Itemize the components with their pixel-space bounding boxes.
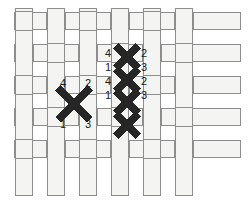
- warp-over-crossing: [16, 12, 33, 31]
- single-stitch-label-bottom-right: 3: [85, 119, 91, 130]
- woven-fabric-illustration: [0, 0, 252, 207]
- column-left-label-2: 1: [105, 62, 111, 73]
- column-left-label-1: 4: [105, 48, 111, 59]
- warp-over-crossing: [48, 44, 65, 63]
- warp-over-crossing: [176, 108, 193, 127]
- warp-strip: [176, 8, 193, 195]
- warp-strip: [16, 8, 33, 195]
- column-right-label-1: 2: [141, 48, 147, 59]
- warp-over-crossing: [80, 12, 97, 31]
- warp-strip: [48, 8, 65, 195]
- warp-over-crossing: [176, 44, 193, 63]
- warp-over-crossing: [144, 140, 161, 159]
- column-right-label-2: 3: [141, 62, 147, 73]
- single-stitch-label-top-left: 4: [60, 78, 66, 89]
- cross-stitch-diagram: 421341412323: [0, 0, 252, 207]
- single-stitch-label-bottom-left: 1: [60, 119, 66, 130]
- warp-strip: [144, 8, 161, 195]
- column-left-label-4: 1: [105, 90, 111, 101]
- warp-over-crossing: [16, 140, 33, 159]
- column-right-label-3: 2: [141, 76, 147, 87]
- single-stitch-label-top-right: 2: [85, 78, 91, 89]
- column-left-label-3: 4: [105, 76, 111, 87]
- warp-over-crossing: [80, 140, 97, 159]
- warp-over-crossing: [144, 12, 161, 31]
- column-right-label-4: 3: [141, 90, 147, 101]
- warp-strips-group: [16, 8, 193, 195]
- warp-over-crossing: [16, 76, 33, 95]
